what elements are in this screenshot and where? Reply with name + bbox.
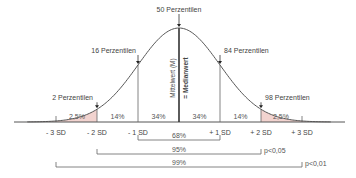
significance-label: p<0,05 bbox=[264, 147, 286, 155]
median-label: = Medianwert bbox=[182, 56, 189, 98]
tail-percent-label: 2,5% bbox=[273, 113, 289, 120]
percentile-label: 2 Perzentilen bbox=[52, 94, 93, 101]
mean-label: Mittelwert (M) bbox=[169, 58, 177, 97]
bracket-percent-label: 68% bbox=[172, 132, 186, 139]
arrow-down-icon bbox=[177, 24, 181, 27]
area-percent-label: 34% bbox=[192, 113, 206, 120]
significance-label: p<0,01 bbox=[305, 160, 327, 168]
area-percent-label: 14% bbox=[233, 113, 247, 120]
x-tick-label: - 1 SD bbox=[128, 129, 148, 136]
percentile-label: 84 Perzentilen bbox=[224, 47, 269, 54]
x-tick-label: - 2 SD bbox=[87, 129, 107, 136]
normal-distribution-chart: 2,5%2,5%14%34%34%14%- 3 SD- 2 SD- 1 SD+ … bbox=[0, 0, 356, 178]
x-tick-label: + 3 SD bbox=[291, 129, 313, 136]
tail-percent-label: 2,5% bbox=[69, 113, 85, 120]
percentile-label: 16 Perzentilen bbox=[91, 47, 136, 54]
x-tick-label: - 3 SD bbox=[46, 129, 66, 136]
x-tick-label: + 1 SD bbox=[209, 129, 231, 136]
bracket-percent-label: 95% bbox=[172, 146, 186, 153]
percentile-label: 50 Perzentilen bbox=[157, 6, 202, 13]
area-percent-label: 34% bbox=[151, 113, 165, 120]
x-tick-label: + 2 SD bbox=[250, 129, 272, 136]
percentile-label: 98 Perzentilen bbox=[265, 94, 310, 101]
area-percent-label: 14% bbox=[110, 113, 124, 120]
bracket-percent-label: 99% bbox=[172, 159, 186, 166]
